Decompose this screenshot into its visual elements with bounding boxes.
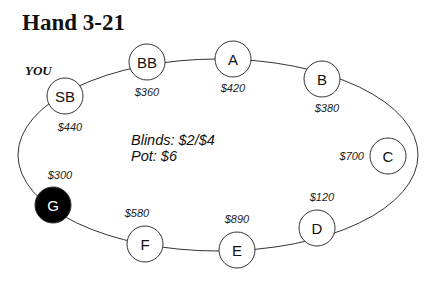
seat-label: D xyxy=(312,220,323,237)
seat-label: E xyxy=(232,242,242,259)
stack-amount: $440 xyxy=(57,121,83,133)
seat-c: C$700 xyxy=(339,138,406,174)
seat-label: SB xyxy=(55,88,75,105)
seat-label: A xyxy=(228,51,238,68)
stack-amount: $300 xyxy=(47,169,73,181)
seat-bb: BB$360 xyxy=(129,44,165,98)
seat-label: B xyxy=(317,71,327,88)
seat-g: G$300 xyxy=(35,169,73,223)
stack-amount: $420 xyxy=(220,82,246,94)
seat-label: F xyxy=(140,236,149,253)
seat-a: A$420 xyxy=(215,41,251,94)
seat-d: D$120 xyxy=(299,191,335,246)
hand-info: Blinds: $2/$4 Pot: $6 xyxy=(131,132,215,164)
stack-amount: $360 xyxy=(134,86,160,98)
seat-b: B$380 xyxy=(304,61,340,114)
seat-f: F$580 xyxy=(124,207,163,262)
stack-amount: $120 xyxy=(309,191,335,203)
pot-text: Pot: $6 xyxy=(131,148,215,164)
blinds-text: Blinds: $2/$4 xyxy=(131,132,215,148)
stack-amount: $890 xyxy=(224,213,250,225)
hero-label: YOU xyxy=(25,63,52,79)
seat-sb: SB$440 xyxy=(47,78,83,133)
stack-amount: $580 xyxy=(124,207,150,219)
seat-label: C xyxy=(383,148,394,165)
seat-e: E$890 xyxy=(219,213,255,268)
stack-amount: $380 xyxy=(314,102,340,114)
seat-label: G xyxy=(47,197,59,214)
seat-label: BB xyxy=(137,54,157,71)
stack-amount: $700 xyxy=(339,150,365,162)
